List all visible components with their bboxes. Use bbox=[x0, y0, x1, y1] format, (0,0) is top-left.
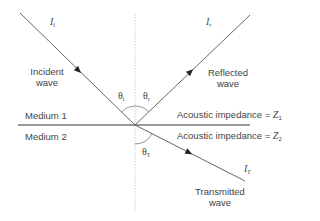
medium-1-label: Medium 1 bbox=[25, 110, 67, 121]
reflected-intensity-label: Ir bbox=[206, 16, 212, 31]
transmitted-angle-label: θT bbox=[142, 146, 150, 161]
transmitted-intensity-label: IT bbox=[244, 163, 251, 178]
reflected-wave-label: Reflected wave bbox=[198, 67, 258, 89]
medium-2-label: Medium 2 bbox=[25, 131, 67, 142]
transmitted-angle-arc bbox=[135, 134, 152, 144]
incident-wave-label: Incident wave bbox=[22, 66, 72, 88]
incident-angle-arc bbox=[122, 106, 135, 112]
incident-angle-label: θi bbox=[118, 90, 124, 105]
medium-1-impedance-label: Acoustic impedance = Z1 bbox=[177, 109, 282, 124]
medium-2-impedance-label: Acoustic impedance = Z2 bbox=[177, 130, 282, 145]
transmitted-arrow-icon bbox=[185, 148, 194, 157]
transmitted-wave-label: Transmitted wave bbox=[186, 186, 254, 208]
reflected-angle-arc bbox=[135, 106, 149, 112]
reflected-angle-label: θr bbox=[143, 90, 150, 105]
incident-intensity-label: Ii bbox=[50, 16, 55, 31]
